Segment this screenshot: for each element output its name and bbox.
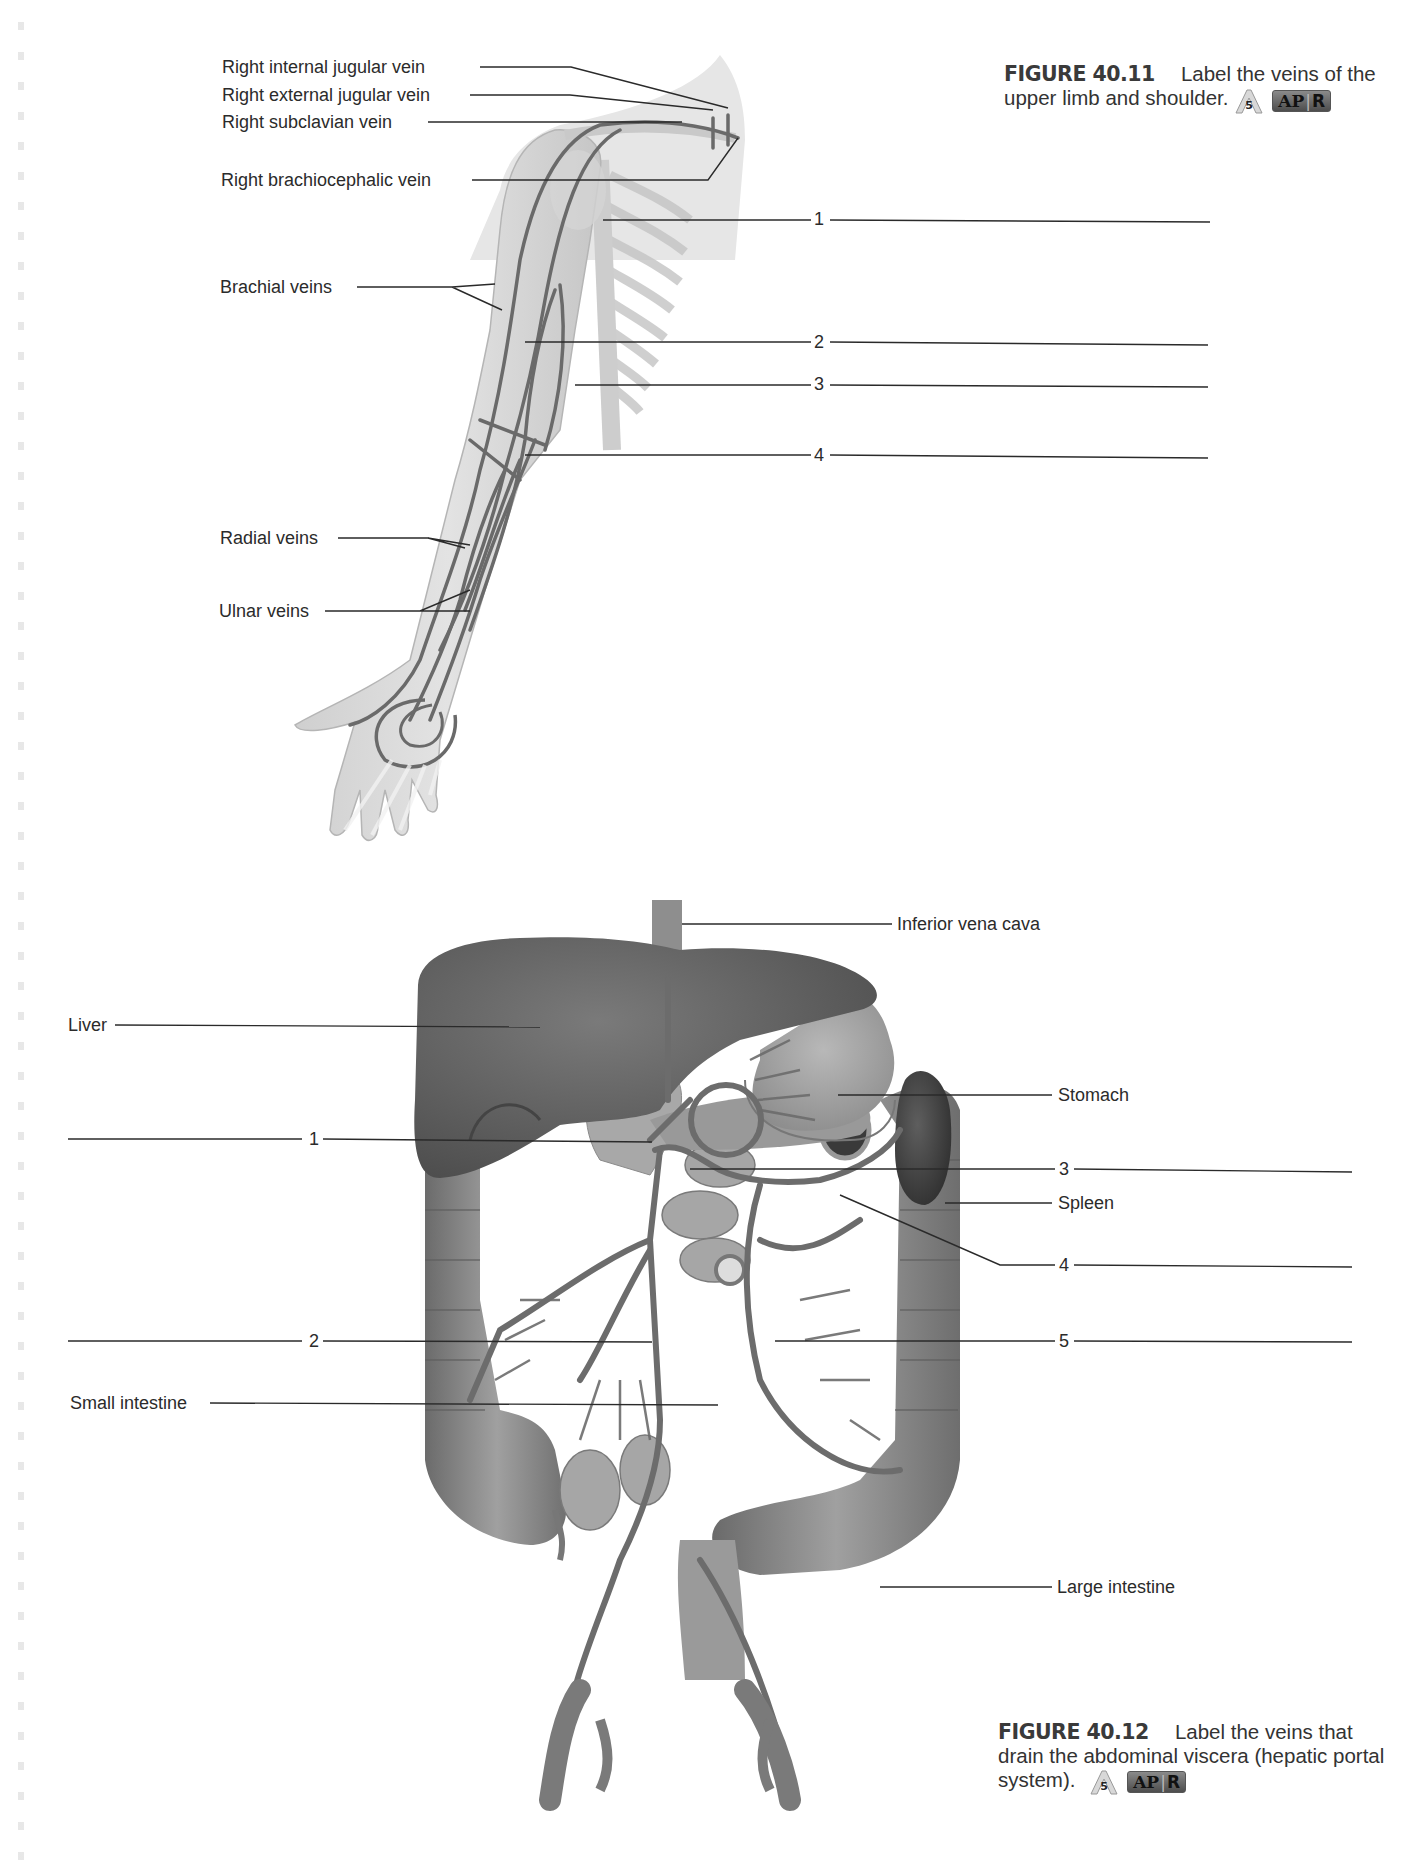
apr-r-text: R: [1167, 1772, 1180, 1792]
label-right-internal-jugular-vein: Right internal jugular vein: [222, 57, 425, 77]
blank-label-3[interactable]: 3: [811, 374, 827, 394]
figure-40-11-caption: FIGURE 40.11Label the veins of the upper…: [1004, 62, 1404, 114]
label-radial-veins: Radial veins: [220, 528, 318, 548]
anatomy-level-icon: 5: [1089, 1769, 1119, 1795]
label-right-subclavian-vein: Right subclavian vein: [222, 112, 392, 132]
figure-40-12-caption: FIGURE 40.12Label the veins that drain t…: [998, 1720, 1398, 1795]
blank-label-1[interactable]: 1: [306, 1129, 322, 1149]
label-right-brachiocephalic-vein: Right brachiocephalic vein: [221, 170, 431, 190]
textbook-page: Right internal jugular vein Right extern…: [0, 0, 1423, 1876]
apr-text: AP: [1278, 91, 1304, 111]
apr-text: AP: [1133, 1772, 1159, 1792]
blank-label-3[interactable]: 3: [1056, 1159, 1072, 1179]
anatomy-level-icon: 5: [1234, 88, 1264, 114]
figure-number: FIGURE 40.11: [1004, 62, 1155, 86]
hepatic-portal-illustration: [414, 900, 960, 1800]
blank-label-2[interactable]: 2: [306, 1331, 322, 1351]
blank-label-5[interactable]: 5: [1056, 1331, 1072, 1351]
blank-label-4[interactable]: 4: [1056, 1255, 1072, 1275]
label-right-external-jugular-vein: Right external jugular vein: [222, 85, 430, 105]
label-small-intestine: Small intestine: [70, 1393, 187, 1413]
label-large-intestine: Large intestine: [1057, 1577, 1175, 1597]
blank-label-1[interactable]: 1: [811, 209, 827, 229]
figure-number: FIGURE 40.12: [998, 1720, 1149, 1744]
apr-r-text: R: [1312, 91, 1325, 111]
apr-badge-icon[interactable]: AP|R: [1127, 1771, 1186, 1793]
svg-text:5: 5: [1100, 1780, 1108, 1793]
apr-separator: |: [1160, 1772, 1166, 1792]
label-stomach: Stomach: [1058, 1085, 1129, 1105]
label-ulnar-veins: Ulnar veins: [219, 601, 309, 621]
svg-text:5: 5: [1245, 99, 1253, 112]
label-spleen: Spleen: [1058, 1193, 1114, 1213]
label-brachial-veins: Brachial veins: [220, 277, 332, 297]
apr-badge-icon[interactable]: AP|R: [1272, 90, 1331, 112]
label-liver: Liver: [68, 1015, 107, 1035]
label-inferior-vena-cava: Inferior vena cava: [897, 914, 1040, 934]
illustrations: [0, 0, 1423, 1876]
apr-separator: |: [1305, 91, 1311, 111]
resource-badges: 5 AP|R: [1234, 88, 1331, 114]
blank-label-2[interactable]: 2: [811, 332, 827, 352]
blank-label-4[interactable]: 4: [811, 445, 827, 465]
resource-badges: 5 AP|R: [1089, 1769, 1186, 1795]
